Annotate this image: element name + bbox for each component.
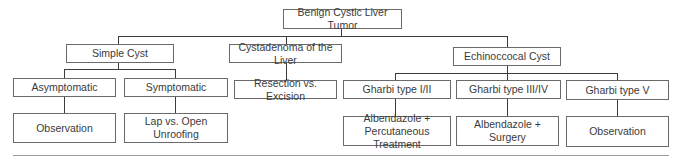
connector (64, 97, 65, 113)
node-simple-cyst: Simple Cyst (66, 44, 174, 63)
node-gharbi-3-4: Gharbi type III/IV (456, 80, 561, 99)
connector (64, 69, 176, 70)
node-albendazole-surgery: Albendazole + Surgery (456, 116, 559, 146)
node-observation-2: Observation (566, 116, 669, 147)
connector (395, 73, 396, 80)
node-resection: Resection vs. Excision (234, 80, 337, 99)
connector (507, 65, 508, 73)
node-gharbi-5: Gharbi type V (566, 80, 669, 100)
node-symptomatic: Symptomatic (124, 78, 228, 97)
connector (175, 97, 176, 113)
connector (507, 73, 508, 80)
connector (118, 36, 508, 37)
connector (617, 99, 618, 116)
node-cystadenoma: Cystadenoma of the Liver (229, 44, 342, 63)
node-echinococcal: Echinoccocal Cyst (453, 47, 561, 66)
connector (64, 69, 65, 78)
node-observation-1: Observation (13, 113, 116, 143)
node-albendazole-perc: Albendazole + Percutaneous Treatment (343, 116, 451, 146)
connector (507, 99, 508, 116)
node-gharbi-1-2: Gharbi type I/II (343, 80, 451, 99)
bottom-rule (13, 155, 669, 156)
connector (118, 62, 119, 69)
connector (175, 69, 176, 78)
connector (617, 73, 618, 80)
connector (507, 36, 508, 47)
node-root: Benign Cystic Liver Tumor (283, 9, 402, 29)
node-asymptomatic: Asymptomatic (13, 78, 116, 97)
connector (118, 36, 119, 44)
node-lap-open: Lap vs. Open Unroofing (124, 113, 228, 143)
